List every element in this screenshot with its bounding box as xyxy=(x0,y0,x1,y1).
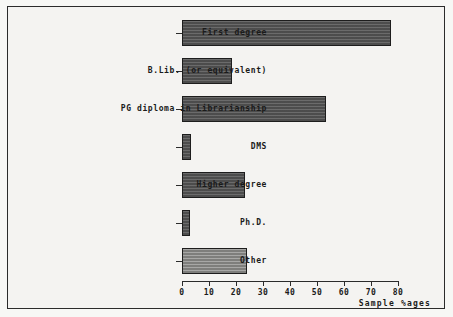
y-axis-label: PG diploma in Librarianship xyxy=(121,104,267,114)
y-axis-tick xyxy=(176,147,182,148)
y-axis-tick xyxy=(176,261,182,262)
x-axis-tick xyxy=(236,281,237,286)
y-axis-label: Ph.D. xyxy=(240,218,267,228)
y-axis-tick xyxy=(176,33,182,34)
x-axis-tick xyxy=(344,281,345,286)
x-axis-tick xyxy=(371,281,372,286)
x-axis-tick-label: 80 xyxy=(393,288,404,297)
x-axis-tick-label: 40 xyxy=(285,288,296,297)
plot-area xyxy=(182,14,398,280)
x-axis-tick-label: 60 xyxy=(339,288,350,297)
chart-figure: First degreeB.Lib. (or equivalent)PG dip… xyxy=(0,0,453,317)
x-axis-tick-label: 70 xyxy=(366,288,377,297)
x-axis-tick-label: 50 xyxy=(312,288,323,297)
x-axis-tick xyxy=(317,281,318,286)
bar-row xyxy=(182,210,398,236)
x-axis-tick-label: 0 xyxy=(179,288,184,297)
bar-row xyxy=(182,248,398,274)
y-axis-label: B.Lib. (or equivalent) xyxy=(148,66,267,76)
y-axis-tick xyxy=(176,185,182,186)
x-axis-tick xyxy=(398,281,399,286)
y-axis-label: DMS xyxy=(251,142,267,152)
y-axis-label: Other xyxy=(240,256,267,266)
y-axis-tick xyxy=(176,223,182,224)
x-axis-tick xyxy=(290,281,291,286)
bar xyxy=(182,210,190,236)
x-axis-title: Sample %ages xyxy=(359,299,431,308)
bar-row xyxy=(182,134,398,160)
x-axis-tick xyxy=(182,281,183,286)
x-axis-tick-label: 30 xyxy=(258,288,269,297)
x-axis-tick xyxy=(263,281,264,286)
x-axis-tick-label: 20 xyxy=(231,288,242,297)
y-axis-label: Higher degree xyxy=(197,180,267,190)
x-axis-tick-label: 10 xyxy=(204,288,215,297)
y-axis-label: First degree xyxy=(202,28,267,38)
x-axis-tick xyxy=(209,281,210,286)
bar xyxy=(182,248,247,274)
bar xyxy=(182,134,191,160)
